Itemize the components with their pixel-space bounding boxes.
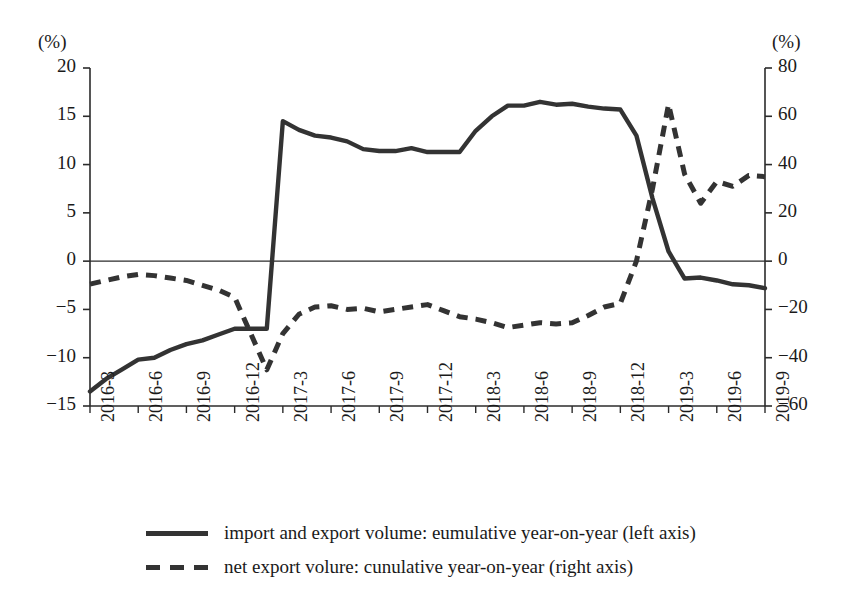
y-axis-tick-6: −10 (28, 345, 76, 367)
legend-label-import-export: import and export volume: eumulative yea… (224, 522, 696, 544)
x-axis-tick-1: 2016-6 (146, 371, 167, 422)
y-axis-tick-2: 10 (28, 152, 76, 174)
legend-item-net-export: net export volure: cunulative year-on-ye… (146, 550, 766, 584)
plot-area (0, 0, 863, 600)
y-axis-tick-7: −15 (28, 393, 76, 415)
legend-item-import-export: import and export volume: eumulative yea… (146, 516, 766, 550)
y-axis-tick-1: 15 (28, 103, 76, 125)
right-axis-unit-label: (%) (772, 31, 800, 53)
y2-axis-tick-4: 0 (778, 248, 826, 270)
x-axis-tick-10: 2018-9 (580, 371, 601, 422)
y2-axis-tick-6: −40 (778, 345, 826, 367)
chart-container: (%) (%) 20151050−5−10−15 806040200−20−40… (0, 0, 863, 600)
left-axis-unit-label: (%) (38, 31, 66, 53)
x-axis-tick-14: 2019-9 (773, 371, 794, 422)
x-axis-tick-12: 2019-3 (677, 371, 698, 422)
y2-axis-tick-2: 40 (778, 152, 826, 174)
x-axis-tick-7: 2017-12 (436, 362, 457, 422)
y-axis-tick-3: 5 (28, 200, 76, 222)
y2-axis-tick-0: 80 (778, 55, 826, 77)
x-axis-tick-13: 2019-6 (725, 371, 746, 422)
x-axis-tick-9: 2018-6 (532, 371, 553, 422)
x-axis-tick-4: 2017-3 (291, 371, 312, 422)
x-axis-tick-0: 2016-3 (98, 371, 119, 422)
legend-label-net-export: net export volure: cunulative year-on-ye… (224, 556, 633, 578)
x-axis-tick-8: 2018-3 (484, 371, 505, 422)
y2-axis-tick-1: 60 (778, 103, 826, 125)
x-axis-tick-5: 2017-6 (339, 371, 360, 422)
x-axis-tick-2: 2016-9 (194, 371, 215, 422)
x-axis-tick-3: 2016-12 (243, 362, 264, 422)
y-axis-tick-5: −5 (28, 296, 76, 318)
y-axis-tick-0: 20 (28, 55, 76, 77)
x-axis-tick-11: 2018-12 (628, 362, 649, 422)
y-axis-tick-4: 0 (28, 248, 76, 270)
legend-dashed-line-icon (146, 560, 208, 574)
y2-axis-tick-3: 20 (778, 200, 826, 222)
x-axis-tick-6: 2017-9 (387, 371, 408, 422)
series-line-0 (90, 102, 765, 392)
legend-solid-line-icon (146, 526, 208, 540)
chart-legend: import and export volume: eumulative yea… (146, 516, 766, 584)
y2-axis-tick-5: −20 (778, 296, 826, 318)
